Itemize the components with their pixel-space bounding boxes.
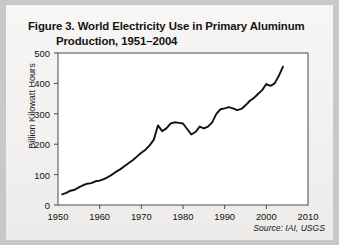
x-tick-label-1990: 1990 bbox=[202, 211, 248, 222]
y-tick-label-200: 200 bbox=[6, 139, 50, 150]
figure-page: Figure 3. World Electricity Use in Prima… bbox=[6, 5, 333, 240]
line-chart bbox=[6, 5, 333, 240]
y-tick-label-0: 0 bbox=[6, 200, 50, 211]
x-tick-label-1950: 1950 bbox=[35, 211, 81, 222]
y-tick-label-500: 500 bbox=[6, 48, 50, 59]
source-note: Source: IAI, USGS bbox=[253, 223, 325, 233]
x-tick-label-2010: 2010 bbox=[285, 211, 331, 222]
figure-canvas: Figure 3. World Electricity Use in Prima… bbox=[6, 5, 333, 240]
x-tick-label-1960: 1960 bbox=[77, 211, 123, 222]
y-tick-label-100: 100 bbox=[6, 169, 50, 180]
x-tick-label-1980: 1980 bbox=[160, 211, 206, 222]
chart-container: Billion Kilowatt Hours 0100200300400500 … bbox=[6, 5, 333, 240]
y-tick-label-300: 300 bbox=[6, 108, 50, 119]
x-axis-ticks bbox=[100, 205, 267, 209]
y-axis-ticks bbox=[54, 53, 58, 205]
y-tick-label-400: 400 bbox=[6, 78, 50, 89]
x-tick-label-2000: 2000 bbox=[243, 211, 289, 222]
x-tick-label-1970: 1970 bbox=[118, 211, 164, 222]
